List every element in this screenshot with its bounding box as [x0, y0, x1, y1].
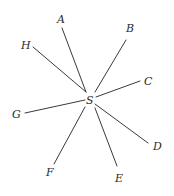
center-label-s: S — [86, 94, 94, 107]
point-label-b: B — [125, 22, 134, 35]
point-label-d: D — [152, 140, 162, 153]
point-label-e: E — [114, 172, 123, 185]
ray-diagram: ABCDEFGH S — [0, 0, 174, 196]
point-label-f: F — [45, 166, 54, 179]
point-label-g: G — [12, 108, 21, 121]
ray-b — [95, 40, 126, 92]
ray-d — [95, 104, 148, 143]
point-label-a: A — [56, 13, 65, 26]
point-label-h: H — [20, 39, 31, 52]
ray-g — [25, 100, 85, 113]
ray-e — [95, 108, 117, 166]
point-label-c: C — [144, 75, 153, 88]
ray-c — [96, 81, 140, 97]
ray-f — [54, 107, 85, 164]
